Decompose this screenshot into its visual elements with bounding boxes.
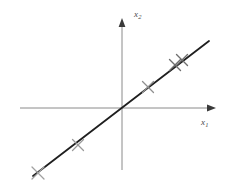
x-axis-arrowhead: [207, 105, 216, 112]
data-point-marker-3: [143, 82, 154, 93]
scatter-plot-figure: x2 x1: [0, 0, 237, 192]
y-axis-arrowhead: [119, 18, 126, 27]
y-axis-label: x2: [134, 10, 141, 19]
x-axis-label-subscript: 1: [205, 121, 208, 128]
data-point-marker-1: [32, 167, 44, 179]
y-axis-label-subscript: 2: [138, 13, 141, 20]
x-axis-label: x1: [201, 118, 208, 127]
data-point-marker-5: [177, 55, 188, 66]
plot-canvas: [0, 0, 237, 192]
